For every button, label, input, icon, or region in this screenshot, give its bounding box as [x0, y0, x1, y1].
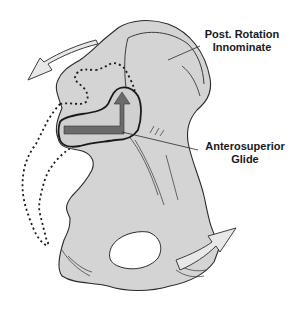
label-anterosuperior-glide: Anterosuperior Glide	[200, 140, 290, 166]
label-post-rotation-line2: Innominate	[196, 41, 288, 54]
label-glide-line1: Anterosuperior	[200, 140, 290, 153]
label-post-rotation-innominate: Post. Rotation Innominate	[196, 28, 288, 54]
label-glide-line2: Glide	[200, 153, 290, 166]
label-post-rotation-line1: Post. Rotation	[196, 28, 288, 41]
